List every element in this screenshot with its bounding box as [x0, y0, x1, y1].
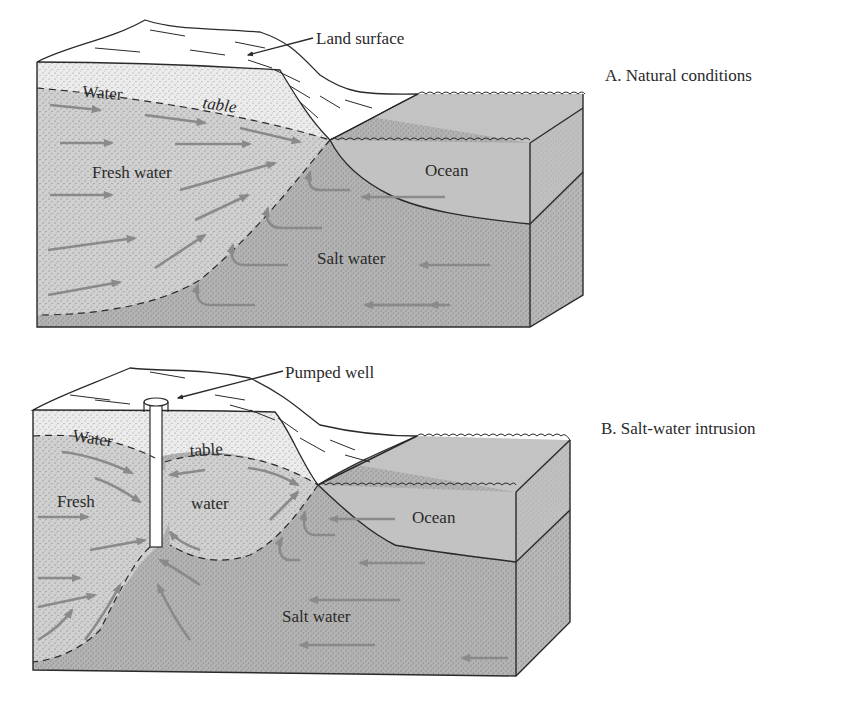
caption-a: A. Natural conditions [605, 66, 752, 86]
label-pumped-well: Pumped well [285, 363, 375, 382]
label-land-surface: Land surface [316, 29, 404, 48]
label-fresh-water: Fresh water [92, 163, 172, 182]
ocean-wave-icon [418, 92, 585, 94]
label-table: table [189, 439, 223, 460]
panel-b-salt-water-intrusion: Pumped well Water table Fresh water Ocea… [33, 363, 570, 676]
caption-b: B. Salt-water intrusion [601, 419, 755, 439]
label-water: Water [82, 82, 124, 104]
label-ocean: Ocean [412, 508, 456, 527]
label-water-2: water [191, 494, 229, 513]
salt-water-intrusion-figure: Land surface Water table Fresh water Oce… [0, 0, 855, 701]
label-salt-water: Salt water [282, 607, 351, 626]
label-salt-water: Salt water [317, 249, 386, 268]
label-fresh: Fresh [57, 492, 95, 511]
panel-a-natural-conditions: Land surface Water table Fresh water Oce… [37, 20, 585, 327]
label-ocean: Ocean [425, 161, 469, 180]
